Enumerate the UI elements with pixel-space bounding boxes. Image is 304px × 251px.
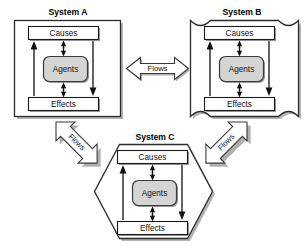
system-b-agents-label: Agents [229,65,255,74]
systems-flows-diagram: System A Causes Agents Effects [0,0,304,251]
system-b-causes-label: Causes [226,29,254,38]
system-a-effects-label: Effects [51,100,76,109]
system-a-causes-label: Causes [50,29,78,38]
system-a-agents-label: Agents [53,65,79,74]
flows-label-a-b: Flows [148,64,168,73]
flows-connector-a-b[interactable]: Flows [127,58,191,82]
flows-connector-a-c-body[interactable]: Flows [56,122,97,163]
system-c-effects-label: Effects [140,224,165,233]
diagram-canvas: System A Causes Agents Effects [0,0,304,251]
system-c-agents-label: Agents [142,189,168,198]
system-a-title: System A [49,7,88,17]
system-c-group[interactable]: System C Causes Agents Effects [95,132,216,241]
system-b-title: System B [222,7,261,17]
system-b-group[interactable]: System B Causes Agents Effects [191,7,302,119]
system-b-effects-label: Effects [227,100,252,109]
system-c-title: System C [135,132,174,142]
system-a-group[interactable]: System A Causes Agents Effects [15,7,124,119]
system-c-causes-label: Causes [139,153,167,162]
